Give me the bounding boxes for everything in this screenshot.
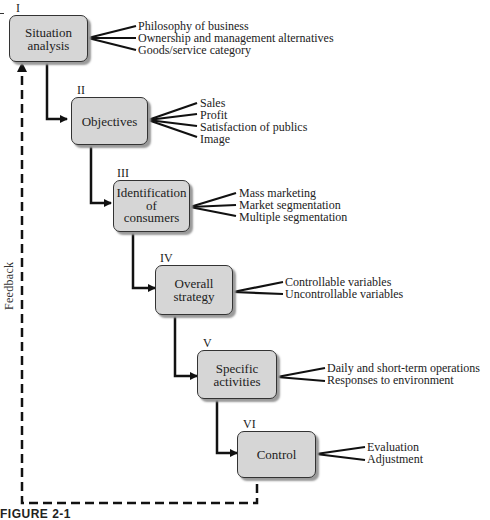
fan-1 [88, 26, 136, 50]
feedback-arrowhead [17, 62, 27, 72]
fan-2 [148, 103, 197, 137]
connector-3-4 [133, 232, 155, 288]
connector-4-5 [175, 315, 197, 376]
connector-2-3 [91, 145, 111, 203]
stage-numeral: VI [243, 417, 256, 432]
connector-5-6 [217, 398, 237, 453]
fan-4 [233, 282, 283, 294]
stage-numeral: III [117, 166, 129, 181]
stage-numeral: II [77, 83, 85, 98]
stage-items: Evaluation Adjustment [367, 441, 423, 465]
feedback-label: Feedback [2, 262, 17, 310]
stage-items: Mass marketing Market segmentation Multi… [239, 187, 347, 223]
stage-box-specific-activities: Specific activities [197, 350, 277, 399]
stage-numeral: I [16, 1, 20, 16]
stage-items: Daily and short-term operations Response… [327, 362, 480, 386]
stage-title: consumers [124, 212, 180, 225]
stage-box-control: Control [237, 431, 316, 478]
stage-items: Philosophy of business Ownership and man… [138, 20, 334, 56]
item: Adjustment [367, 453, 423, 465]
stage-title: Specific [216, 362, 259, 375]
stage-title: Objectives [82, 115, 138, 128]
item: Image [200, 133, 307, 145]
stage-numeral: IV [160, 251, 173, 266]
stage-box-overall-strategy: Overall strategy [155, 265, 233, 315]
item: Goods/service category [138, 44, 334, 56]
item: Multiple segmentation [239, 211, 347, 223]
stage-items: Controllable variables Uncontrollable va… [285, 276, 403, 300]
item: Uncontrollable variables [285, 288, 403, 300]
fan-6 [316, 447, 365, 460]
stage-items: Sales Profit Satisfaction of publics Ima… [200, 97, 307, 145]
fan-3 [190, 193, 236, 216]
stage-title: activities [214, 375, 261, 388]
fan-5 [277, 368, 325, 381]
stage-box-identification-of-consumers: Identification of consumers [113, 180, 190, 232]
connector-1-2 [47, 62, 67, 119]
stage-title: Situation [25, 26, 72, 39]
stage-title: analysis [28, 39, 70, 52]
figure-caption: FIGURE 2-1 [0, 507, 71, 520]
stage-title: strategy [173, 290, 214, 303]
stage-title: Control [257, 448, 297, 461]
stage-numeral: V [203, 336, 212, 351]
stage-box-situation-analysis: Situation analysis [9, 15, 88, 62]
item: Responses to environment [327, 374, 480, 386]
corner-tick [0, 13, 4, 14]
stage-box-objectives: Objectives [71, 97, 148, 145]
diagram: I Situation analysis Philosophy of busin… [0, 0, 490, 520]
